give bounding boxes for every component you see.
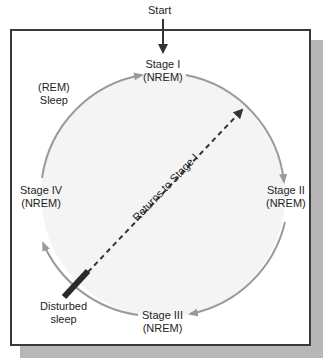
stage3-subtitle: (NREM) bbox=[142, 322, 183, 335]
rem-title: (REM) bbox=[38, 81, 70, 94]
rem-subtitle: Sleep bbox=[38, 94, 70, 107]
start-label: Start bbox=[148, 4, 171, 17]
disturbed-title: Disturbed bbox=[40, 300, 87, 313]
node-rem-sleep: (REM) Sleep bbox=[38, 81, 70, 107]
stage4-subtitle: (NREM) bbox=[20, 197, 62, 210]
stage1-subtitle: (NREM) bbox=[143, 71, 183, 84]
disturbed-subtitle: sleep bbox=[40, 313, 87, 326]
stage2-title: Stage II bbox=[266, 184, 306, 197]
stage2-subtitle: (NREM) bbox=[266, 197, 306, 210]
node-stage4: Stage IV (NREM) bbox=[20, 184, 62, 210]
disturbed-sleep-label: Disturbed sleep bbox=[40, 300, 87, 326]
stage4-title: Stage IV bbox=[20, 184, 62, 197]
start-text: Start bbox=[148, 4, 171, 17]
node-stage1: Stage I (NREM) bbox=[143, 58, 183, 84]
stage1-title: Stage I bbox=[143, 58, 183, 71]
node-stage2: Stage II (NREM) bbox=[266, 184, 306, 210]
node-stage3: Stage III (NREM) bbox=[142, 309, 183, 335]
stage3-title: Stage III bbox=[142, 309, 183, 322]
